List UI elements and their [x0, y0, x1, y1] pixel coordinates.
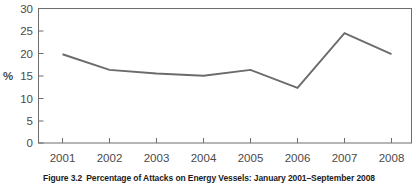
x-tick-label-2002: 2002 — [97, 152, 123, 164]
y-tick-label-10: 10 — [20, 93, 33, 105]
figure-caption: Figure 3.2Percentage of Attacks on Energ… — [0, 173, 418, 183]
data-series-line — [63, 33, 392, 88]
y-tick-label-30: 30 — [20, 3, 33, 15]
y-axis-ticks — [39, 9, 44, 144]
x-tick-label-2001: 2001 — [50, 152, 76, 164]
y-tick-label-0: 0 — [27, 137, 33, 149]
y-tick-label-15: 15 — [20, 70, 33, 82]
figure-container: 30 25 20 15 10 5 0 % 2001 2002 2003 2004 — [0, 0, 418, 190]
plot-frame — [39, 9, 412, 144]
x-axis-ticks — [63, 138, 392, 143]
x-tick-label-2008: 2008 — [379, 152, 405, 164]
x-tick-label-2006: 2006 — [285, 152, 311, 164]
y-tick-label-5: 5 — [27, 115, 33, 127]
x-tick-label-2007: 2007 — [332, 152, 358, 164]
figure-caption-number: Figure 3.2 — [43, 173, 82, 183]
line-chart: 30 25 20 15 10 5 0 % 2001 2002 2003 2004 — [0, 0, 418, 190]
x-axis-tick-labels: 2001 2002 2003 2004 2005 2006 2007 2008 — [50, 152, 405, 164]
x-tick-label-2003: 2003 — [144, 152, 170, 164]
x-tick-label-2005: 2005 — [238, 152, 264, 164]
y-tick-label-20: 20 — [20, 48, 33, 60]
y-tick-label-25: 25 — [20, 25, 33, 37]
y-axis-title: % — [3, 70, 13, 82]
y-axis-tick-labels: 30 25 20 15 10 5 0 — [20, 3, 33, 150]
x-tick-label-2004: 2004 — [191, 152, 217, 164]
figure-caption-text: Percentage of Attacks on Energy Vessels:… — [86, 173, 375, 183]
